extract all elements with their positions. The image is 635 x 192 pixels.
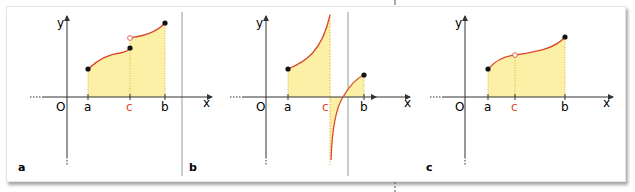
point-a <box>85 66 90 71</box>
point-b <box>562 34 567 39</box>
svg-text:O: O <box>256 100 265 114</box>
figure-canvas: y O a c b x a y O a c b x b x <box>0 0 635 192</box>
svg-text:x: x <box>203 96 210 110</box>
svg-text:O: O <box>455 100 464 114</box>
svg-text:b: b <box>189 161 197 174</box>
svg-text:y: y <box>455 16 462 30</box>
svg-text:a: a <box>484 100 491 114</box>
svg-text:O: O <box>56 100 65 114</box>
svg-text:b: b <box>561 100 569 114</box>
svg-text:y: y <box>57 16 64 30</box>
point-a <box>485 66 490 71</box>
svg-text:c: c <box>426 161 433 174</box>
svg-text:c: c <box>511 100 518 114</box>
svg-text:a: a <box>18 161 25 174</box>
svg-text:x: x <box>603 96 610 110</box>
svg-text:b: b <box>161 100 169 114</box>
svg-text:a: a <box>84 100 91 114</box>
panel-b-x-label: x <box>404 96 411 110</box>
svg-text:c: c <box>126 100 133 114</box>
panel-a: y O a c b x a <box>18 16 212 174</box>
svg-text:a: a <box>284 100 291 114</box>
panel-c: y O a c b x c <box>426 16 613 174</box>
point-c-open <box>128 36 133 41</box>
svg-text:b: b <box>360 100 368 114</box>
point-a <box>285 66 290 71</box>
svg-text:c: c <box>322 100 329 114</box>
point-b <box>361 72 366 77</box>
point-b <box>162 20 167 25</box>
point-c-filled <box>127 45 132 50</box>
point-c-open <box>513 53 518 58</box>
svg-text:y: y <box>256 16 263 30</box>
